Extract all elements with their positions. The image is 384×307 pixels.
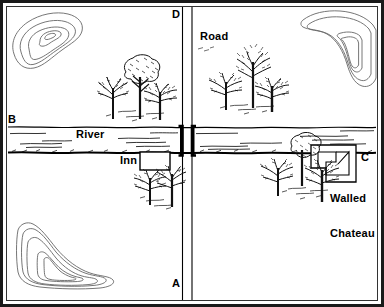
inn-building [140, 152, 170, 170]
label-walled-chateau: Walled Chateau [330, 170, 375, 262]
label-river: River [76, 129, 105, 141]
inn-feature [140, 152, 170, 170]
quadrant-label-c: C [361, 152, 369, 164]
quadrant-label-d: D [172, 9, 180, 21]
label-walled-chateau-line2: Chateau [330, 228, 375, 240]
label-walled-chateau-line1: Walled [330, 193, 375, 205]
map-canvas [0, 0, 384, 307]
quadrant-label-b: B [8, 114, 16, 126]
terrain-map: D B C A Road River Inn Walled Chateau [0, 0, 384, 307]
quadrant-label-a: A [172, 278, 180, 290]
label-inn: Inn [120, 155, 137, 167]
label-road: Road [200, 31, 228, 43]
